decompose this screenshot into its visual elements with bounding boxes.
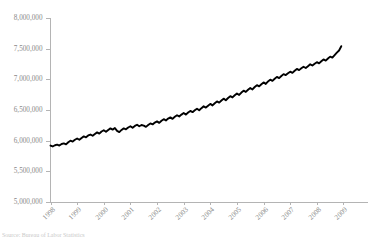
x-tick-label: 2006 — [254, 205, 270, 221]
line-chart: 5,000,0005,500,0006,000,0006,500,0007,00… — [0, 0, 370, 239]
y-axis-tick-labels: 5,000,0005,500,0006,000,0006,500,0007,00… — [14, 14, 43, 206]
x-tick-label: 1999 — [67, 205, 83, 221]
y-tick-label: 5,000,000 — [14, 198, 43, 206]
x-tick-label: 2002 — [147, 205, 163, 221]
x-tick-label: 2009 — [333, 205, 349, 221]
y-axis-tick-marks — [46, 19, 51, 203]
y-tick-label: 8,000,000 — [14, 14, 43, 22]
y-tick-label: 7,000,000 — [14, 75, 43, 83]
chart-container: 5,000,0005,500,0006,000,0006,500,0007,00… — [0, 0, 370, 239]
x-tick-label: 2001 — [120, 205, 136, 221]
y-tick-label: 5,500,000 — [14, 167, 43, 175]
source-caption: Source: Bureau of Labor Statistics — [2, 232, 85, 239]
x-tick-label: 2008 — [307, 205, 323, 221]
x-tick-label: 2007 — [280, 205, 296, 221]
x-tick-label: 2005 — [227, 205, 243, 221]
x-axis-tick-labels: 1998199920002001200220032004200520062007… — [41, 205, 349, 221]
x-tick-label: 2004 — [200, 205, 216, 221]
x-tick-label: 1998 — [41, 205, 57, 221]
y-tick-label: 6,000,000 — [14, 137, 43, 145]
y-tick-label: 7,500,000 — [14, 45, 43, 53]
y-tick-label: 6,500,000 — [14, 106, 43, 114]
x-tick-label: 2000 — [94, 205, 110, 221]
data-series-line — [51, 46, 342, 146]
x-tick-label: 2003 — [174, 205, 190, 221]
